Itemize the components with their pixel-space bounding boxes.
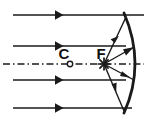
incident-ray-4-arrowhead	[55, 103, 64, 113]
reflected-ray-upper-outer-arrowhead	[111, 36, 119, 43]
reflected-ray-lower-inner-arrowhead	[120, 71, 130, 78]
incident-ray-3-arrowhead	[55, 75, 64, 85]
reflected-ray-upper-inner-arrowhead	[123, 47, 134, 55]
incident-ray-group	[13, 10, 144, 113]
label-focal-point: F	[96, 45, 105, 62]
ray-diagram-canvas: C F	[0, 0, 147, 126]
label-center-of-curvature: C	[59, 45, 70, 62]
ray-diagram-figure: C F	[0, 0, 147, 126]
incident-ray-1-arrowhead	[55, 10, 64, 20]
concave-mirror-arc	[124, 13, 135, 113]
center-of-curvature-marker	[67, 61, 72, 66]
